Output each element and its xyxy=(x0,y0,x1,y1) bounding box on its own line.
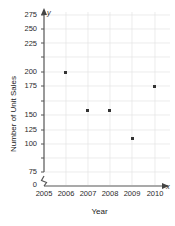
y-axis-title: Number of Unit Sales xyxy=(9,76,18,152)
data-point-2007 xyxy=(86,109,89,112)
data-point-2009 xyxy=(131,137,134,140)
data-point-2010 xyxy=(153,85,156,88)
gridlines-horizontal xyxy=(44,15,170,172)
y-axis-line xyxy=(41,8,47,186)
x-tick-2010: 2010 xyxy=(142,190,168,198)
y-tick-225: 225 xyxy=(13,40,37,48)
y-tick-200: 200 xyxy=(13,68,37,76)
y-tick-0: 0 xyxy=(13,181,37,189)
data-point-2008 xyxy=(108,109,111,112)
y-tick-75: 75 xyxy=(13,168,37,176)
x-axis-symbol: x xyxy=(166,182,170,191)
y-axis-symbol: y xyxy=(47,8,51,17)
y-tick-250: 250 xyxy=(13,25,37,33)
scatter-chart: 275 250 225 200 175 150 125 100 75 0 200… xyxy=(0,0,175,226)
data-point-2006 xyxy=(64,71,67,74)
y-tick-275: 275 xyxy=(13,11,37,19)
x-axis-title: Year xyxy=(12,207,175,216)
gridlines-vertical xyxy=(66,12,155,185)
